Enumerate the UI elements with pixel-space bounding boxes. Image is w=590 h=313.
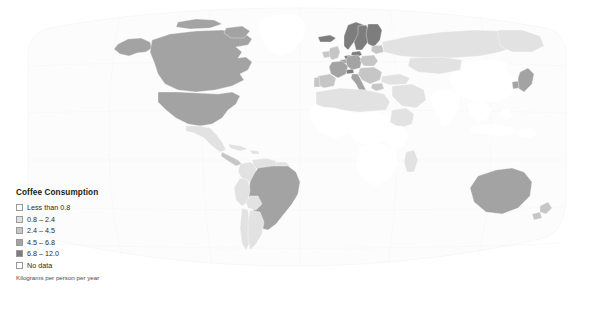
legend-item-b5: 6.8 – 12.0 bbox=[16, 248, 120, 259]
region-portugal bbox=[314, 77, 320, 87]
legend-swatch-nodata bbox=[16, 262, 23, 269]
legend-swatch-b2 bbox=[16, 216, 23, 223]
legend-caption: Kilograms per person per year bbox=[16, 274, 104, 282]
legend-item-b3: 2.4 – 4.5 bbox=[16, 225, 120, 236]
region-south-korea bbox=[512, 81, 519, 89]
map-legend: Coffee Consumption Less than 0.8 0.8 – 2… bbox=[16, 188, 120, 281]
legend-item-b4: 4.5 – 6.8 bbox=[16, 237, 120, 248]
coffee-consumption-map-figure: Coffee Consumption Less than 0.8 0.8 – 2… bbox=[0, 0, 590, 313]
legend-label-b3: 2.4 – 4.5 bbox=[27, 226, 55, 235]
legend-label-nodata: No data bbox=[27, 261, 52, 270]
legend-swatch-b4 bbox=[16, 239, 23, 246]
legend-swatch-b5 bbox=[16, 250, 23, 257]
legend-item-nodata: No data bbox=[16, 260, 120, 271]
legend-item-b2: 0.8 – 2.4 bbox=[16, 214, 120, 225]
legend-title: Coffee Consumption bbox=[16, 188, 120, 198]
legend-label-b5: 6.8 – 12.0 bbox=[27, 249, 59, 258]
region-switzerland bbox=[346, 69, 354, 74]
legend-swatch-b3 bbox=[16, 227, 23, 234]
legend-item-b1: Less than 0.8 bbox=[16, 202, 120, 213]
legend-swatch-b1 bbox=[16, 204, 23, 211]
legend-label-b2: 0.8 – 2.4 bbox=[27, 215, 55, 224]
legend-label-b1: Less than 0.8 bbox=[27, 203, 70, 212]
region-canada bbox=[150, 30, 252, 92]
region-poland bbox=[360, 55, 378, 66]
legend-label-b4: 4.5 – 6.8 bbox=[27, 238, 55, 247]
